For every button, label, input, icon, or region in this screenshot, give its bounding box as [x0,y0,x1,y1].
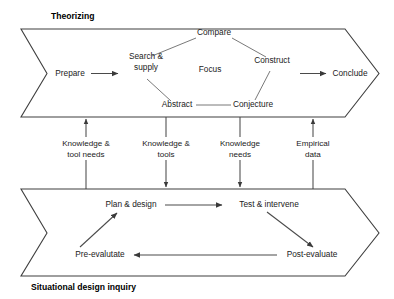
node-plan-design: Plan & design [105,199,157,209]
node-search-supply-line1: Search & [129,51,164,61]
diagram-root: Theorizing Prepare Compare Search & supp… [0,0,394,299]
inquiry-title: Situational design inquiry [31,282,136,292]
node-test-intervene: Test & intervene [239,199,299,209]
node-pre-evalutate: Pre-evalutate [75,249,125,259]
diagram-canvas: Theorizing Prepare Compare Search & supp… [0,0,394,299]
node-compare: Compare [197,27,232,37]
channel-1-label-line1: Knowledge & [62,139,110,148]
channel-2-label-line2: tools [157,150,174,159]
inquiry-band [21,189,379,276]
channel-3-label-line2: needs [229,150,251,159]
node-conclude: Conclude [332,68,367,78]
node-prepare: Prepare [55,68,85,78]
node-search-supply-line2: supply [134,62,159,72]
inquiry-band-shape [21,189,379,276]
channel-1-label-line2: tool needs [67,150,104,159]
channel-2-label-line1: Knowledge & [142,139,190,148]
node-construct: Construct [254,55,290,65]
node-abstract: Abstract [162,99,193,109]
channel-3-label-line1: Knowledge [220,139,261,148]
theorizing-title: Theorizing [51,11,94,21]
node-focus: Focus [199,64,222,74]
node-post-evaluate: Post-evaluate [287,249,338,259]
node-conjecture: Conjecture [233,99,274,109]
channel-4-label-line1: Empirical [296,139,329,148]
channel-4-label-line2: data [305,150,321,159]
